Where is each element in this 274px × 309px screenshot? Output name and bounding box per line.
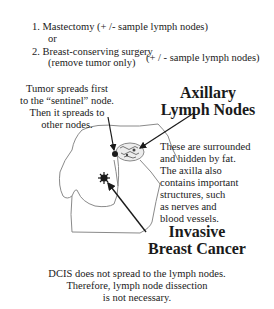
dcis-note-line: Therefore, lymph node dissection xyxy=(0,280,274,292)
axillary-lymph-nodes-label: Axillary Lymph Nodes xyxy=(148,84,268,118)
option-or: or xyxy=(48,33,57,45)
axilla-note: These are surrounded and hidden by fat. … xyxy=(160,141,250,225)
axillary-label-line1: Axillary xyxy=(148,84,268,101)
option-mastectomy: 1. Mastectomy (+ /- sample lymph nodes) xyxy=(32,21,208,33)
axilla-note-line: These are surrounded xyxy=(160,141,250,153)
sentinel-note-line: Tumor spreads first xyxy=(12,83,122,95)
sentinel-note-line: Then it spreads to xyxy=(12,107,122,119)
invasive-breast-cancer-label: Invasive Breast Cancer xyxy=(132,223,262,257)
axilla-note-line: structures, such xyxy=(160,189,250,201)
cancer-label-line1: Invasive xyxy=(132,223,262,240)
tumor-icon xyxy=(98,172,110,184)
axilla-note-line: contains important xyxy=(160,177,250,189)
dcis-note: DCIS does not spread to the lymph nodes.… xyxy=(0,268,274,304)
cancer-label-line2: Breast Cancer xyxy=(132,240,262,257)
axilla-note-line: as nerves and xyxy=(160,201,250,213)
sentinel-note-line: other nodes. xyxy=(12,119,122,131)
lymph-node-cluster xyxy=(116,143,144,161)
dcis-note-line: is not necessary. xyxy=(0,292,274,304)
axilla-note-line: and hidden by fat. xyxy=(160,153,250,165)
sentinel-note: Tumor spreads first to the “sentinel” no… xyxy=(12,83,122,131)
option-breast-conserving-detail: (remove tumor only) xyxy=(48,57,135,69)
sentinel-node-dot xyxy=(112,151,118,157)
dcis-note-line: DCIS does not spread to the lymph nodes. xyxy=(0,268,274,280)
sentinel-note-line: to the “sentinel” node. xyxy=(12,95,122,107)
axilla-note-line: The axilla also xyxy=(160,165,250,177)
option-breast-conserving-nodes: (+ / - sample lymph nodes) xyxy=(146,52,260,64)
axillary-label-line2: Lymph Nodes xyxy=(148,101,268,118)
